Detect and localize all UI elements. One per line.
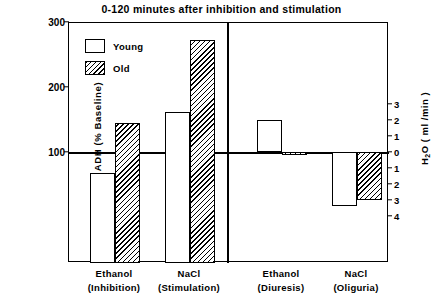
plot-area: ADH (% Baseline) H2O ( ml /min ) 3002001… bbox=[68, 22, 388, 262]
bar-panel-adh-old-0 bbox=[115, 123, 140, 263]
y-axis-right-tick-mark bbox=[387, 183, 392, 184]
y-axis-right-tick-label: 4 bbox=[394, 211, 399, 222]
y-axis-left-tick-label: 200 bbox=[25, 82, 65, 93]
y-axis-right-label-sub: 2 bbox=[424, 153, 431, 157]
category-label-line1: Ethanol bbox=[96, 268, 133, 279]
x-axis-category-label: NaCl(Oliguria) bbox=[296, 267, 416, 295]
legend-item-young: Young bbox=[85, 39, 143, 53]
category-label-line1: NaCl bbox=[178, 268, 201, 279]
y-axis-left-tick-mark bbox=[64, 86, 69, 87]
bar-panel-h2o-old-1 bbox=[357, 152, 382, 200]
category-label-line2: (Oliguria) bbox=[296, 281, 416, 295]
bar-panel-adh-young-0 bbox=[90, 173, 115, 263]
panel-divider bbox=[227, 23, 229, 263]
chart-title: 0-120 minutes after inhibition and stimu… bbox=[0, 3, 443, 15]
y-axis-right-tick-mark bbox=[387, 199, 392, 200]
y-axis-right-label-post: O ( ml /min ) bbox=[419, 92, 430, 153]
y-axis-right-tick-mark bbox=[387, 215, 392, 216]
y-axis-right-tick-mark bbox=[387, 135, 392, 136]
y-axis-right-label: H2O ( ml /min ) bbox=[419, 74, 430, 184]
y-axis-left-tick-mark bbox=[64, 151, 69, 152]
y-axis-right-tick-label: 2 bbox=[394, 115, 399, 126]
bar-panel-h2o-young-1 bbox=[332, 152, 357, 206]
legend-label-young: Young bbox=[113, 41, 143, 52]
y-axis-left-tick-mark bbox=[64, 21, 69, 22]
y-axis-left-tick-label: 100 bbox=[25, 147, 65, 158]
y-axis-right-tick-mark bbox=[387, 151, 392, 152]
y-axis-right-tick-label: 1 bbox=[394, 131, 399, 142]
y-axis-right-tick-label: 1 bbox=[394, 163, 399, 174]
y-axis-right-tick-label: 0 bbox=[394, 147, 399, 158]
bar-panel-h2o-old-0 bbox=[282, 152, 307, 155]
legend-swatch-old-icon bbox=[85, 61, 105, 75]
category-label-line1: NaCl bbox=[345, 268, 368, 279]
y-axis-right-tick-label: 2 bbox=[394, 179, 399, 190]
bar-panel-adh-old-1 bbox=[190, 40, 215, 263]
y-axis-left-tick-label: 300 bbox=[25, 17, 65, 28]
legend-swatch-young-icon bbox=[85, 39, 105, 53]
legend-label-old: Old bbox=[113, 63, 130, 74]
legend-item-old: Old bbox=[85, 61, 143, 75]
y-axis-right-tick-mark bbox=[387, 119, 392, 120]
bar-panel-h2o-young-0 bbox=[257, 120, 282, 152]
y-axis-right-label-pre: H bbox=[419, 158, 430, 165]
bar-panel-adh-young-1 bbox=[165, 112, 190, 263]
y-axis-right-tick-label: 3 bbox=[394, 195, 399, 206]
y-axis-right-tick-label: 3 bbox=[394, 99, 399, 110]
y-axis-right-tick-mark bbox=[387, 103, 392, 104]
figure-root: 0-120 minutes after inhibition and stimu… bbox=[0, 0, 443, 297]
y-axis-right-tick-mark bbox=[387, 167, 392, 168]
chart-legend: Young Old bbox=[85, 39, 143, 83]
category-label-line1: Ethanol bbox=[263, 268, 300, 279]
